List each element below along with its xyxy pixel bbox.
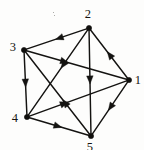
node-vertex-4	[24, 114, 29, 119]
nodes-layer	[21, 25, 131, 138]
node-vertex-3	[21, 47, 26, 52]
edge-5-to-3	[26, 52, 90, 134]
node-label-5: 5	[87, 141, 93, 150]
node-label-2: 2	[85, 8, 91, 21]
edge-4-to-1	[29, 81, 126, 116]
arrowhead-3-to-4	[22, 79, 29, 87]
arrowhead-1-to-5	[108, 102, 115, 111]
node-label-4: 4	[12, 112, 18, 125]
arrowhead-2-to-3	[55, 34, 64, 40]
edges-layer	[24, 29, 127, 135]
node-label-3: 3	[10, 41, 16, 54]
node-label-1: 1	[135, 74, 141, 87]
node-vertex-5	[88, 133, 93, 138]
paper-speck	[54, 15, 55, 16]
node-vertex-1	[126, 77, 131, 82]
graph-figure: 12345	[0, 0, 144, 150]
arrowhead-2-to-5	[87, 76, 94, 84]
graph-canvas	[0, 0, 144, 150]
node-vertex-2	[86, 25, 91, 30]
edge-2-to-4	[28, 30, 87, 115]
arrowhead-4-to-5	[53, 122, 62, 128]
